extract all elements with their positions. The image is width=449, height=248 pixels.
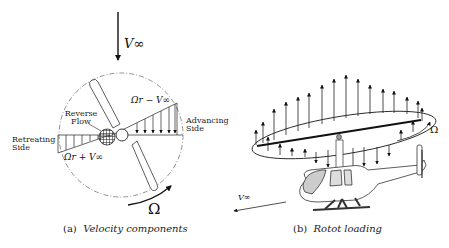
caption-a-text: Velocity components <box>83 223 188 234</box>
rotation-label-a: Ω <box>148 200 160 218</box>
advancing-side-line2: Side <box>186 125 229 133</box>
reverse-flow-label-line2: Flow <box>64 118 98 126</box>
rotor-disk <box>249 102 439 169</box>
reverse-flow-label: Reverse Flow <box>64 110 98 126</box>
freestream-label-a: V∞ <box>124 36 144 51</box>
caption-b-text: Rotot loading <box>314 223 382 234</box>
panel-b-rotor-loading <box>234 75 439 211</box>
rotation-label-b: Ω <box>430 124 438 135</box>
freestream-arrow-icon-b <box>234 202 286 211</box>
rotor-hub <box>116 129 128 141</box>
freestream-label-b: V∞ <box>238 193 250 202</box>
helicopter-icon <box>300 145 426 210</box>
retreating-velocity-label: Ωr + V∞ <box>64 152 103 162</box>
caption-b-tag: (b) <box>293 223 307 234</box>
advancing-velocity-label: Ωr − V∞ <box>131 95 170 105</box>
reverse-flow-region <box>99 129 115 145</box>
caption-a: (a) Velocity components <box>63 223 188 234</box>
retreating-side-label: Retreating Side <box>12 136 55 152</box>
advancing-side-label: Advancing Side <box>186 117 229 133</box>
caption-a-tag: (a) <box>63 223 77 234</box>
caption-b: (b) Rotot loading <box>293 223 382 234</box>
retreating-side-line2: Side <box>12 144 55 152</box>
